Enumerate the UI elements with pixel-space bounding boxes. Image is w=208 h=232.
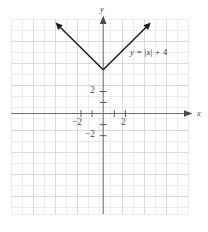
coordinate-plane	[0, 0, 208, 232]
y-axis	[100, 16, 107, 215]
equation-constant: 4	[163, 47, 168, 57]
y-axis-label: y	[100, 5, 104, 14]
y-axis-arrowhead	[100, 16, 107, 25]
x-tick-label-neg2: −2	[72, 118, 82, 128]
equation-annotation: y = |x| + 4	[130, 48, 168, 57]
y-tick-label-neg2: −2	[85, 130, 95, 140]
x-tick-label-2: 2	[121, 118, 126, 128]
x-axis	[11, 110, 193, 117]
x-axis-label: x	[197, 109, 201, 118]
y-tick-label-2: 2	[90, 86, 95, 96]
graph-figure: y x 2 −2 −2 2 y = |x| + 4	[0, 0, 208, 232]
